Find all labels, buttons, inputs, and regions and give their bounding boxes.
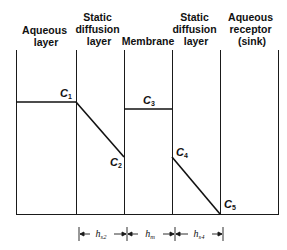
label-hs4: hs4 xyxy=(194,228,206,240)
label-c5: C5 xyxy=(224,198,236,211)
label-c4: C4 xyxy=(176,146,188,159)
diffusion-diagram: Aqueous layer Static diffusion layer Mem… xyxy=(0,0,287,250)
concentration-profile xyxy=(16,102,220,214)
label-c1: C1 xyxy=(60,87,72,100)
region-label-static-diffusion-layer-1: Static diffusion layer xyxy=(75,11,122,47)
region-boundaries xyxy=(16,50,279,215)
profile-diffusion-layer-2 xyxy=(172,157,220,214)
label-hm: hm xyxy=(145,228,155,240)
label-c2: C2 xyxy=(110,156,122,169)
region-label-membrane: Membrane xyxy=(122,35,175,47)
region-label-static-diffusion-layer-2: Static diffusion layer xyxy=(172,11,219,47)
label-hs2: hs2 xyxy=(96,228,108,240)
label-c3: C3 xyxy=(143,94,155,107)
region-label-aqueous-receptor: Aqueous receptor (sink) xyxy=(228,11,276,47)
profile-diffusion-layer-1 xyxy=(76,102,124,157)
region-label-aqueous-layer: Aqueous layer xyxy=(22,24,70,48)
